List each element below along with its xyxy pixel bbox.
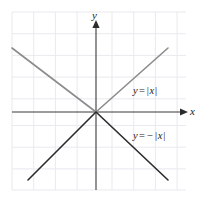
equation-negative-operator: = [138,130,146,141]
curve-y-equals-negative-abs-x [28,112,168,180]
equation-label-negative: y=−|x| [133,131,166,142]
y-axis-label: y [92,10,97,21]
equation-label-positive: y=|x| [133,86,158,97]
grid-lines [12,12,186,190]
equation-negative-close-bar: | [163,130,166,141]
x-axis-label: x [190,106,195,117]
curve-y-equals-abs-x [12,48,168,112]
equation-positive-variable: x [150,85,155,96]
equation-positive-close-bar: | [155,85,158,96]
coordinate-plane-svg [0,0,205,200]
graph-figure: y x y=|x| y=−|x| [0,0,205,200]
y-axis-arrowhead [92,20,99,28]
equation-positive-operator: = [138,85,146,96]
y-axis [92,20,99,190]
x-axis-arrowhead [180,108,188,115]
